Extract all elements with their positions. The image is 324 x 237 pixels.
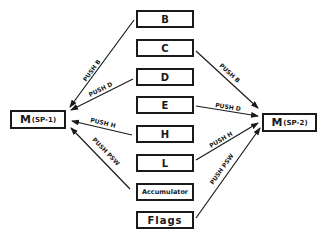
svg-text:PUSH B: PUSH B — [218, 62, 242, 85]
arrow-push-d-right: PUSH D — [196, 101, 258, 116]
svg-text:PUSH B: PUSH B — [81, 58, 102, 83]
register-c: C — [136, 39, 194, 57]
register-h: H — [136, 125, 194, 143]
arrow-push-psw-left: PUSH PSW — [71, 128, 130, 189]
register-b: B — [136, 10, 194, 28]
memory-sp-minus-1: M(SP-1) — [10, 110, 66, 129]
register-l: L — [136, 154, 194, 172]
arrow-push-h-left: PUSH H — [72, 116, 132, 135]
svg-text:PUSH PSW: PUSH PSW — [91, 136, 121, 167]
svg-text:PUSH D: PUSH D — [215, 101, 241, 112]
register-d: D — [136, 68, 194, 86]
register-flags: Flags — [136, 211, 194, 229]
memory-sp-minus-2: M(SP-2) — [262, 113, 317, 132]
register-e: E — [136, 96, 194, 114]
arrow-push-b-right: PUSH B — [196, 51, 258, 108]
svg-text:PUSH H: PUSH H — [90, 116, 117, 129]
register-accumulator: Accumulator — [136, 183, 194, 201]
arrow-push-d-left: PUSH D — [71, 79, 133, 110]
